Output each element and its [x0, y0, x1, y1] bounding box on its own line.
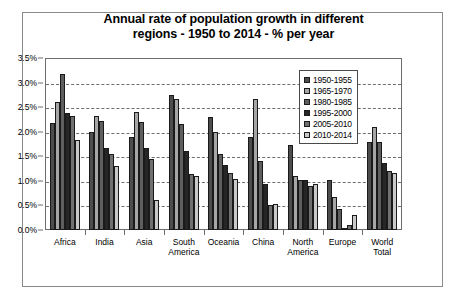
legend-swatch-icon [304, 77, 310, 83]
x-axis-tick-label: India [95, 237, 113, 247]
bar [352, 215, 357, 230]
legend-item-label: 2010-2014 [313, 130, 352, 140]
y-axis-tick-label: 0.0% [18, 225, 37, 235]
bar-group [45, 58, 85, 230]
chart-title-line-2: regions - 1950 to 2014 - % per year [0, 27, 467, 42]
bar-group [243, 58, 283, 230]
bar-group [85, 58, 125, 230]
legend-item-label: 2005-2010 [313, 119, 352, 129]
y-axis-tick-label: 1.0% [18, 176, 37, 186]
chart-title: Annual rate of population growth in diff… [0, 12, 467, 42]
legend-swatch-icon [304, 121, 310, 127]
bar [114, 166, 119, 230]
x-axis-tick-label: Oceania [208, 237, 240, 247]
legend-swatch-icon [304, 110, 310, 116]
legend-swatch-icon [304, 88, 310, 94]
x-axis-tick-label: World Total [371, 237, 393, 257]
y-axis-tick-mark [38, 131, 43, 132]
legend-item: 2010-2014 [304, 129, 352, 140]
bar [75, 140, 80, 230]
bar [233, 179, 238, 230]
y-axis-tick-label: 2.0% [18, 127, 37, 137]
legend-swatch-icon [304, 99, 310, 105]
bar [194, 176, 199, 230]
bar [392, 173, 397, 230]
y-axis-tick-mark [38, 205, 43, 206]
y-axis-tick-mark [38, 107, 43, 108]
y-axis-tick-label: 3.0% [18, 78, 37, 88]
legend-item: 2005-2010 [304, 118, 352, 129]
x-axis-tick-mark [124, 230, 125, 235]
y-axis-tick-label: 3.5% [18, 53, 37, 63]
y-axis-tick-mark [38, 82, 43, 83]
bar-group [362, 58, 402, 230]
bar [313, 184, 318, 230]
x-axis-tick-mark [243, 230, 244, 235]
x-axis-tick-label: North America [287, 237, 318, 257]
y-axis: 0.0%0.5%1.0%1.5%2.0%2.5%3.0%3.5% [0, 58, 43, 230]
legend-item-label: 1980-1985 [313, 97, 352, 107]
x-axis-tick-label: China [252, 237, 274, 247]
x-axis-tick-label: South America [168, 237, 199, 257]
x-axis-tick-label: Asia [136, 237, 153, 247]
y-axis-tick-mark [38, 230, 43, 231]
legend-item-label: 1965-1970 [313, 86, 352, 96]
y-axis-tick-mark [38, 156, 43, 157]
x-axis-tick-mark [323, 230, 324, 235]
y-axis-tick-label: 0.5% [18, 200, 37, 210]
bar [273, 204, 278, 230]
bar [154, 200, 159, 230]
x-axis-tick-mark [204, 230, 205, 235]
legend-item: 1965-1970 [304, 85, 352, 96]
legend-item: 1995-2000 [304, 107, 352, 118]
x-axis-tick-label: Africa [54, 237, 76, 247]
chart-legend: 1950-19551965-19701980-19851995-20002005… [299, 70, 358, 144]
x-axis-tick-mark [362, 230, 363, 235]
bar-group [204, 58, 244, 230]
y-axis-tick-mark [38, 58, 43, 59]
legend-item: 1950-1955 [304, 74, 352, 85]
legend-item: 1980-1985 [304, 96, 352, 107]
legend-item-label: 1950-1955 [313, 75, 352, 85]
legend-swatch-icon [304, 132, 310, 138]
y-axis-tick-label: 2.5% [18, 102, 37, 112]
x-axis-tick-mark [164, 230, 165, 235]
bar-group [124, 58, 164, 230]
x-axis: AfricaIndiaAsiaSouth AmericaOceaniaChina… [45, 233, 402, 267]
x-axis-tick-label: Europe [329, 237, 356, 247]
bar-group [164, 58, 204, 230]
y-axis-tick-mark [38, 180, 43, 181]
legend-item-label: 1995-2000 [313, 108, 352, 118]
x-axis-tick-mark [283, 230, 284, 235]
chart-title-line-1: Annual rate of population growth in diff… [0, 12, 467, 27]
x-axis-tick-mark [85, 230, 86, 235]
y-axis-tick-label: 1.5% [18, 151, 37, 161]
